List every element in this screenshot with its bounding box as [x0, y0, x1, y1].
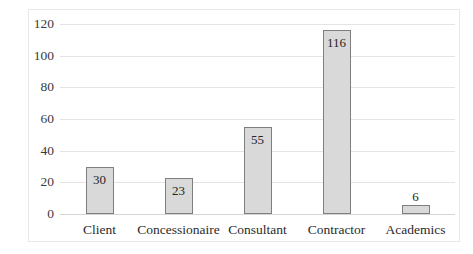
bar-value-label: 6 — [412, 190, 419, 203]
x-axis-category-label: Academics — [386, 219, 446, 241]
y-axis-tick-label: 60 — [8, 112, 54, 126]
bar-slot: 30 — [60, 24, 139, 214]
bar-value-label: 116 — [327, 36, 346, 49]
y-axis-tick-label: 100 — [8, 49, 54, 63]
x-axis-category-label: Contractor — [308, 219, 366, 241]
y-axis-tick-label: 40 — [8, 144, 54, 158]
x-axis: ClientConcessionaireConsultantContractor… — [60, 219, 455, 245]
bar-chart: 020406080100120 3023551166 ClientConcess… — [0, 0, 473, 254]
bar-value-label: 30 — [93, 173, 106, 186]
x-axis-category-label: Concessionaire — [137, 219, 219, 241]
bar[interactable] — [323, 30, 351, 214]
bar-value-label: 23 — [172, 184, 185, 197]
y-axis-tick-label: 80 — [8, 81, 54, 95]
bar-value-label: 55 — [251, 133, 264, 146]
x-axis-category-label: Consultant — [228, 219, 287, 241]
bar[interactable] — [402, 205, 430, 215]
x-axis-category-label: Client — [83, 219, 116, 241]
y-axis: 020406080100120 — [0, 24, 54, 214]
y-axis-tick-label: 0 — [8, 207, 54, 221]
bar-slot: 55 — [218, 24, 297, 214]
y-axis-tick-label: 20 — [8, 176, 54, 190]
y-axis-tick-label: 120 — [8, 17, 54, 31]
bar-slot: 116 — [297, 24, 376, 214]
bar-slot: 23 — [139, 24, 218, 214]
bar-slot: 6 — [376, 24, 455, 214]
axis-baseline — [60, 214, 455, 215]
bars-layer: 3023551166 — [60, 24, 455, 214]
